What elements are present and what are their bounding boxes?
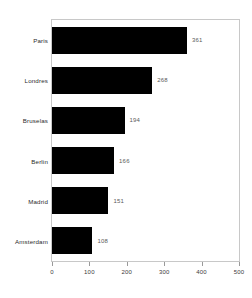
bar-row: 166	[52, 147, 239, 174]
bar-value-label: 151	[113, 198, 124, 204]
bar-chart-figure: ParisLondresBruselasBerlinMadridAmsterda…	[0, 0, 252, 298]
category-label-paris: Paris	[2, 37, 48, 44]
bar-value-label: 108	[97, 238, 108, 244]
category-label-madrid: Madrid	[2, 197, 48, 204]
bar-value-label: 166	[119, 158, 130, 164]
x-tick-label: 100	[84, 269, 95, 275]
x-tick-label: 400	[196, 269, 207, 275]
bar-row: 194	[52, 107, 239, 134]
x-tick-mark	[127, 262, 128, 266]
x-tick-label: 500	[234, 269, 245, 275]
bar-value-label: 361	[192, 37, 203, 43]
category-label-amsterdam: Amsterdam	[2, 237, 48, 244]
x-tick-mark	[164, 262, 165, 266]
bar-amsterdam[interactable]	[52, 227, 92, 254]
x-tick-label: 0	[50, 269, 54, 275]
x-axis: 0100200300400500	[52, 262, 239, 286]
category-label-londres: Londres	[2, 77, 48, 84]
category-label-berlin: Berlin	[2, 157, 48, 164]
category-axis-labels: ParisLondresBruselasBerlinMadridAmsterda…	[0, 20, 48, 261]
bar-row: 268	[52, 67, 239, 94]
x-tick-mark	[52, 262, 53, 266]
bar-bruselas[interactable]	[52, 107, 125, 134]
bar-row: 361	[52, 27, 239, 54]
x-tick-label: 300	[159, 269, 170, 275]
plot-area: 361268194166151108	[52, 20, 239, 261]
bar-row: 108	[52, 227, 239, 254]
bar-londres[interactable]	[52, 67, 152, 94]
bar-value-label: 268	[157, 77, 168, 83]
x-tick-label: 200	[121, 269, 132, 275]
bar-berlin[interactable]	[52, 147, 114, 174]
bar-madrid[interactable]	[52, 187, 108, 214]
x-tick-mark	[89, 262, 90, 266]
x-tick-mark	[202, 262, 203, 266]
bar-paris[interactable]	[52, 27, 187, 54]
category-label-bruselas: Bruselas	[2, 117, 48, 124]
x-tick-mark	[239, 262, 240, 266]
bar-row: 151	[52, 187, 239, 214]
bar-value-label: 194	[130, 117, 141, 123]
